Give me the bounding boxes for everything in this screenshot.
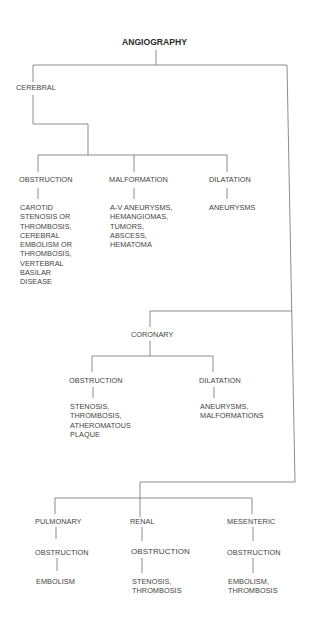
detail-mesenteric: EMBOLISM, THROMBOSIS bbox=[228, 577, 278, 596]
node-pulmonary-obstruction: OBSTRUCTION bbox=[35, 548, 89, 557]
node-coronary: CORONARY bbox=[131, 330, 173, 339]
node-cerebral-obstruction: OBSTRUCTION bbox=[19, 175, 73, 184]
detail-pulmonary: EMBOLISM bbox=[36, 577, 75, 586]
detail-renal: STENOSIS, THROMBOSIS bbox=[132, 577, 182, 596]
detail-coronary-obstruction: STENOSIS, THROMBOSIS, ATHEROMATOUS PLAQU… bbox=[70, 402, 131, 439]
node-cerebral-malformation: MALFORMATION bbox=[109, 175, 168, 184]
detail-cerebral-dilatation: ANEURYSMS bbox=[209, 203, 256, 212]
node-pulmonary: PULMONARY bbox=[35, 517, 82, 526]
node-renal-obstruction: OBSTRUCTION bbox=[131, 547, 190, 556]
node-coronary-dilatation: DILATATION bbox=[199, 376, 241, 385]
node-mesenteric: MESENTERIC bbox=[227, 517, 275, 526]
diagram-title: ANGIOGRAPHY bbox=[122, 37, 187, 47]
node-cerebral: CEREBRAL bbox=[16, 83, 56, 92]
detail-coronary-dilatation: ANEURYSMS, MALFORMATIONS bbox=[200, 402, 264, 421]
detail-cerebral-obstruction: CAROTID STENOSIS OR THROMBOSIS, CEREBRAL… bbox=[20, 203, 72, 287]
node-renal: RENAL bbox=[130, 517, 155, 526]
node-mesenteric-obstruction: OBSTRUCTION bbox=[227, 548, 281, 557]
detail-cerebral-malformation: A-V ANEURYSMS, HEMANGIOMAS, TUMORS, ABSC… bbox=[110, 203, 173, 249]
node-cerebral-dilatation: DILATATION bbox=[209, 175, 251, 184]
node-coronary-obstruction: OBSTRUCTION bbox=[69, 376, 123, 385]
